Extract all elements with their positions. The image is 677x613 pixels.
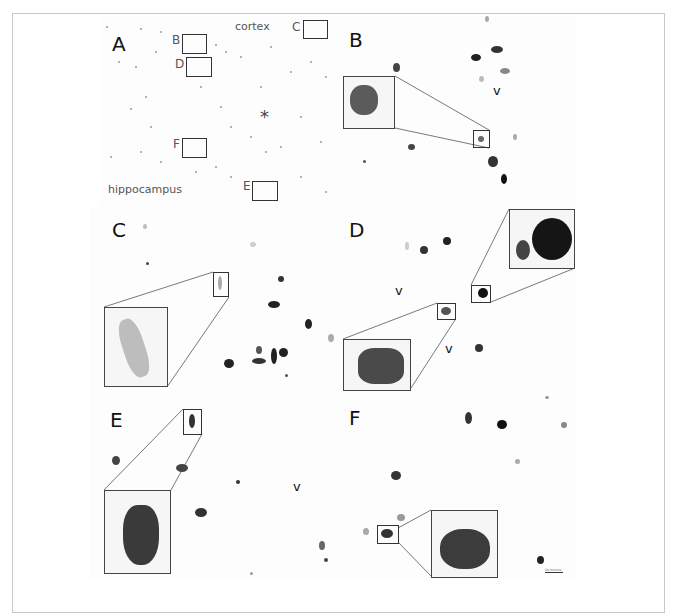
panel-label-c: C xyxy=(112,220,126,240)
region-box-d xyxy=(186,57,212,77)
vessel-marker-1: v xyxy=(395,284,403,297)
inset-magnified-2 xyxy=(509,209,575,269)
microglia-cell-zoomed xyxy=(532,218,572,260)
region-box-f xyxy=(182,138,207,158)
inset-magnified xyxy=(104,307,168,387)
region-box-b xyxy=(182,34,207,54)
panel-label-d: D xyxy=(349,220,364,240)
panel-label-e: E xyxy=(110,410,123,430)
cortex-label: cortex xyxy=(235,21,270,32)
vessel-marker: v xyxy=(293,480,301,493)
panel-a: A cortex hippocampus * B D C F E xyxy=(100,16,335,206)
inset-magnified xyxy=(343,76,395,129)
panel-f: F 20 microns xyxy=(335,396,575,580)
inset-magnified xyxy=(431,510,498,578)
panel-b: B v xyxy=(335,16,575,204)
asterisk-marker: * xyxy=(260,108,269,126)
panel-c: C xyxy=(90,206,335,396)
microglia-cell xyxy=(441,307,451,315)
microglia-cell xyxy=(189,414,195,428)
panel-e: E v xyxy=(90,396,335,580)
scale-bar: 20 microns xyxy=(545,568,563,573)
microglia-cell xyxy=(381,529,393,538)
microglia-cell-zoomed xyxy=(114,316,153,380)
box-label-e: E xyxy=(243,180,251,192)
box-label-b: B xyxy=(172,34,180,46)
microglia-cell-zoomed xyxy=(350,85,378,115)
panel-d: D v v xyxy=(335,206,575,396)
inset-magnified-1 xyxy=(343,339,411,391)
microglia-cell xyxy=(478,136,484,142)
box-label-d: D xyxy=(175,58,184,70)
region-box-e xyxy=(252,181,278,201)
box-label-c: C xyxy=(292,21,300,33)
microglia-cell-zoomed xyxy=(440,529,490,569)
microglia-cell xyxy=(218,276,222,290)
vessel-marker: v xyxy=(493,84,501,97)
inset-magnified xyxy=(104,490,171,574)
region-box-c xyxy=(303,20,328,39)
microglia-cell-zoomed xyxy=(358,348,404,384)
panel-label-a: A xyxy=(112,34,126,54)
box-label-f: F xyxy=(173,138,180,150)
microglia-cell xyxy=(478,288,488,298)
vessel-marker-2: v xyxy=(445,342,453,355)
panel-label-b: B xyxy=(349,30,363,50)
microglia-cell-zoomed xyxy=(123,505,159,565)
hippocampus-label: hippocampus xyxy=(108,184,182,195)
panel-label-f: F xyxy=(349,408,361,428)
